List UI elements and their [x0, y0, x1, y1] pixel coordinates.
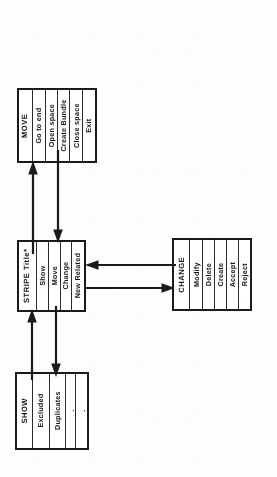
- connector-stripe-to-change: [84, 281, 176, 295]
- menu-item-duplicates[interactable]: Duplicates: [50, 374, 66, 448]
- menu-item-open-space[interactable]: Open space: [46, 90, 58, 161]
- connector-move-to-stripe: [51, 150, 65, 244]
- menu-header-label: SHOW: [21, 398, 29, 424]
- menu-box-show[interactable]: SHOW Excluded Duplicates . .: [15, 372, 89, 450]
- menu-item-new-related[interactable]: New Related: [72, 242, 84, 310]
- menu-item-excluded[interactable]: Excluded: [33, 374, 49, 448]
- menu-item-label: Create: [217, 263, 224, 287]
- menu-item-label: .: [67, 410, 74, 412]
- menu-item-blank-2[interactable]: .: [76, 374, 87, 448]
- connector-show-to-stripe: [25, 308, 39, 380]
- menu-item-label: Delete: [205, 263, 212, 286]
- menu-item-label: .: [78, 410, 85, 412]
- menu-item-blank-1[interactable]: .: [66, 374, 77, 448]
- menu-header-change: CHANGE: [174, 240, 190, 309]
- arrowhead-up-icon: [28, 161, 38, 175]
- menu-item-label: Accept: [229, 262, 236, 287]
- menu-item-show[interactable]: Show: [37, 242, 49, 310]
- menu-header-show: SHOW: [17, 374, 33, 448]
- menu-item-label: Move: [51, 266, 58, 285]
- menu-item-label: Show: [39, 266, 46, 286]
- menu-header-label: STRIPE Title*: [24, 249, 32, 303]
- menu-item-move[interactable]: Move: [49, 242, 61, 310]
- menu-item-modify[interactable]: Modify: [190, 240, 202, 309]
- connector-change-to-stripe: [84, 258, 176, 272]
- menu-item-label: Exit: [85, 118, 92, 132]
- menu-item-label: Modify: [192, 262, 199, 287]
- menu-box-stripe-title[interactable]: STRIPE Title* Show Move Change New Relat…: [17, 240, 86, 312]
- menu-item-change[interactable]: Change: [61, 242, 73, 310]
- menu-header-label: CHANGE: [178, 257, 186, 293]
- menu-item-create[interactable]: Create: [215, 240, 227, 309]
- menu-item-label: Change: [62, 262, 69, 290]
- menu-item-label: Reject: [241, 263, 248, 286]
- menu-item-accept[interactable]: Accept: [227, 240, 238, 309]
- menu-header-move: MOVE: [19, 90, 33, 161]
- menu-item-reject[interactable]: Reject: [239, 240, 250, 309]
- menu-item-exit[interactable]: Exit: [83, 90, 95, 161]
- menu-header-label: MOVE: [22, 113, 30, 137]
- menu-box-move[interactable]: MOVE Go to end Open space Create Bundle …: [17, 88, 97, 163]
- menu-item-create-bundle[interactable]: Create Bundle: [58, 90, 70, 161]
- menu-header-stripe-title: STRIPE Title*: [19, 242, 37, 310]
- menu-box-change[interactable]: CHANGE Modify Delete Create Accept Rejec…: [172, 238, 252, 311]
- menu-item-label: Create Bundle: [60, 100, 67, 152]
- connector-stripe-to-show: [49, 306, 63, 378]
- menu-item-label: Open space: [48, 104, 55, 147]
- arrowhead-left-icon: [85, 260, 99, 270]
- menu-item-close-space[interactable]: Close space: [70, 90, 82, 161]
- menu-item-label: New Related: [75, 253, 82, 299]
- menu-item-label: Excluded: [37, 394, 44, 428]
- menu-item-label: Close space: [72, 103, 79, 148]
- menu-item-go-to-end[interactable]: Go to end: [33, 90, 45, 161]
- menu-item-label: Go to end: [35, 108, 42, 144]
- diagram-canvas: MOVE Go to end Open space Create Bundle …: [0, 0, 277, 477]
- menu-item-delete[interactable]: Delete: [203, 240, 215, 309]
- menu-item-label: Duplicates: [54, 392, 61, 431]
